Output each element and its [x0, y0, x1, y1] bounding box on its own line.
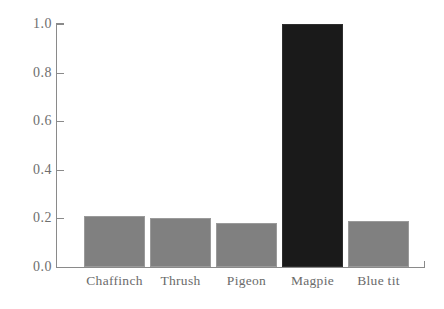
- x-axis-label-blue-tit: Blue tit: [340, 273, 417, 289]
- bar-blue-tit[interactable]: [348, 221, 409, 267]
- bar-chart: 0.00.20.40.60.81.0 ChaffinchThrushPigeon…: [0, 0, 444, 309]
- bar-thrush[interactable]: [150, 218, 211, 267]
- bar-chaffinch[interactable]: [84, 216, 145, 267]
- bars-layer: [0, 0, 444, 309]
- bar-magpie[interactable]: [282, 24, 343, 267]
- bar-pigeon[interactable]: [216, 223, 277, 267]
